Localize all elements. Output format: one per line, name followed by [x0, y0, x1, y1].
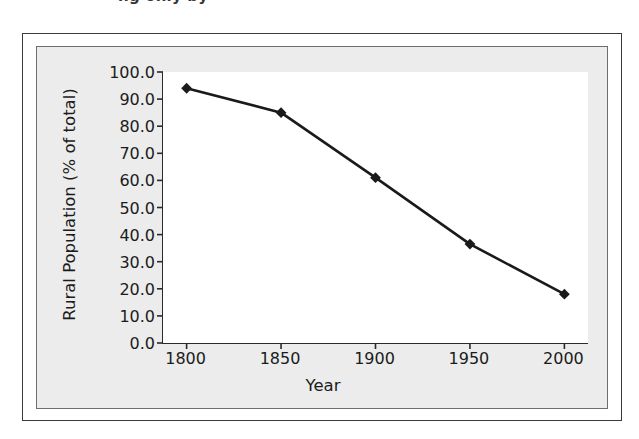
chart-figure: Rural Population (% of total) 100.090.08… [36, 46, 608, 409]
y-axis-tick-label: 60.0 [85, 171, 155, 190]
y-axis-tick-labels: 100.090.080.070.060.050.040.030.020.010.… [85, 72, 155, 343]
x-axis-tick-label: 1900 [335, 349, 415, 368]
line-chart-svg [163, 72, 588, 343]
series-line-rural-population [187, 88, 565, 294]
figure-outer-border: Rural Population (% of total) 100.090.08… [22, 33, 622, 421]
y-axis-tick-label: 40.0 [85, 225, 155, 244]
y-axis-tick-label: 20.0 [85, 279, 155, 298]
plot-area [162, 72, 588, 344]
y-axis-tick-label: 10.0 [85, 306, 155, 325]
data-point-marker [181, 83, 192, 94]
page-text-remnant: ng only by [0, 0, 639, 12]
y-axis-tick-label: 100.0 [85, 63, 155, 82]
x-axis-tick-label: 1850 [240, 349, 320, 368]
y-axis-tick-label: 70.0 [85, 144, 155, 163]
x-axis-tick-label: 1800 [146, 349, 226, 368]
axis-tick-marks [157, 72, 564, 349]
x-axis-title: Year [37, 376, 609, 395]
x-axis-tick-labels: 18001850190019502000 [162, 349, 587, 371]
page-text-remnant-label: ng only by [118, 0, 208, 5]
y-axis-tick-label: 30.0 [85, 252, 155, 271]
x-axis-tick-label: 1950 [429, 349, 509, 368]
y-axis-tick-label: 0.0 [85, 334, 155, 353]
x-axis-tick-label: 2000 [523, 349, 603, 368]
y-axis-tick-label: 90.0 [85, 90, 155, 109]
data-point-marker [559, 289, 570, 300]
y-axis-tick-label: 80.0 [85, 117, 155, 136]
y-axis-title: Rural Population (% of total) [60, 40, 79, 370]
y-axis-tick-label: 50.0 [85, 198, 155, 217]
